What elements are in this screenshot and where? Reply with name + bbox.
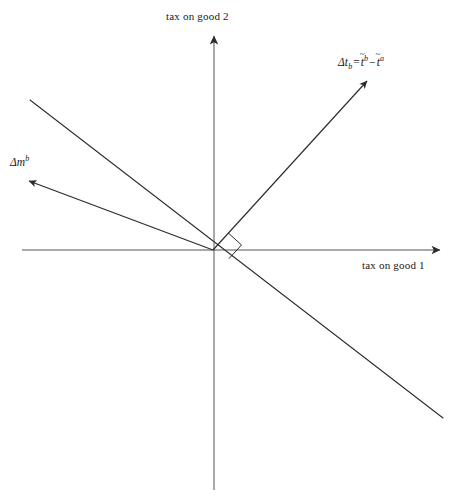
- delta-t-term2: ~t: [377, 57, 380, 69]
- delta-m-b-label: Δmb: [10, 155, 29, 168]
- delta-m-b-vector: [29, 181, 213, 250]
- delta-t-delta-glyph: Δ: [338, 56, 345, 68]
- delta-m-base-glyph: m: [17, 156, 25, 168]
- delta-t-term1: ~t: [361, 57, 364, 69]
- delta-t-b-vector: [213, 81, 367, 250]
- figure-tax-diagram: tax on good 2 tax on good 1 Δtb=~tb−~ta …: [0, 0, 451, 499]
- delta-m-delta-glyph: Δ: [10, 156, 17, 168]
- x-axis-label: tax on good 1: [362, 260, 425, 271]
- diagram-canvas: [0, 0, 451, 499]
- delta-t-b-label: Δtb=~tb−~ta: [338, 55, 384, 71]
- tilde-accent-icon: ~: [376, 50, 381, 59]
- tilde-accent-icon: ~: [360, 50, 365, 59]
- y-axis-label: tax on good 2: [166, 11, 229, 22]
- delta-m-superscript-glyph: b: [25, 154, 29, 163]
